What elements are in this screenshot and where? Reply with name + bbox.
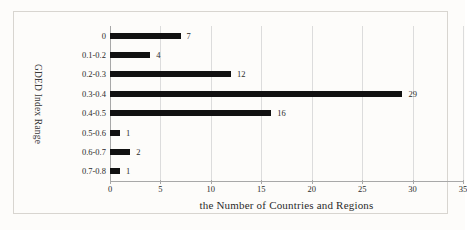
x-tick-label: 30: [408, 184, 417, 194]
plot-area: 74122916121: [110, 26, 463, 181]
y-tick-label: 0.3-0.4: [44, 89, 106, 99]
y-tick-label: 0.7-0.8: [44, 166, 106, 176]
bar[interactable]: [110, 130, 120, 136]
y-tick-label: 0.2-0.3: [44, 69, 106, 79]
x-axis-title: the Number of Countries and Regions: [110, 199, 463, 211]
bar-value-label: 12: [237, 69, 246, 79]
x-tick-label: 35: [459, 184, 467, 194]
y-tick-label: 0: [44, 31, 106, 41]
bar[interactable]: [110, 168, 120, 174]
x-axis-line: [110, 181, 463, 182]
bar[interactable]: [110, 52, 150, 58]
x-tick-label: 25: [358, 184, 367, 194]
bar[interactable]: [110, 71, 231, 77]
bar[interactable]: [110, 33, 181, 39]
x-tick-label: 5: [158, 184, 162, 194]
y-tick-label: 0.4-0.5: [44, 108, 106, 118]
bar-value-label: 1: [126, 166, 130, 176]
x-tick-label: 10: [207, 184, 216, 194]
bar[interactable]: [110, 110, 271, 116]
bar-row: 4: [110, 45, 463, 64]
y-axis-tick-labels: 00.1-0.20.2-0.30.3-0.40.4-0.50.5-0.60.6-…: [40, 26, 106, 181]
x-tick-label: 0: [108, 184, 112, 194]
gridline-x-35: [463, 26, 464, 181]
y-tick-label: 0.6-0.7: [44, 147, 106, 157]
bar-value-label: 16: [277, 108, 286, 118]
bar-row: 1: [110, 123, 463, 142]
bar-value-label: 7: [187, 31, 191, 41]
y-tick-label: 0.5-0.6: [44, 128, 106, 138]
bar-row: 1: [110, 162, 463, 181]
bar-value-label: 4: [156, 50, 160, 60]
bar-row: 7: [110, 26, 463, 45]
bar[interactable]: [110, 149, 130, 155]
bar-row: 29: [110, 84, 463, 103]
bar[interactable]: [110, 91, 402, 97]
bar-value-label: 1: [126, 128, 130, 138]
bar-row: 2: [110, 142, 463, 161]
bar-row: 16: [110, 104, 463, 123]
x-tick-label: 15: [257, 184, 266, 194]
bar-value-label: 29: [408, 89, 417, 99]
bar-value-label: 2: [136, 147, 140, 157]
x-tick-label: 20: [307, 184, 316, 194]
bar-row: 12: [110, 65, 463, 84]
y-tick-label: 0.1-0.2: [44, 50, 106, 60]
chart-frame: GDED Index Range 00.1-0.20.2-0.30.3-0.40…: [13, 11, 448, 214]
x-axis-tick-labels: 05101520253035: [110, 184, 463, 198]
